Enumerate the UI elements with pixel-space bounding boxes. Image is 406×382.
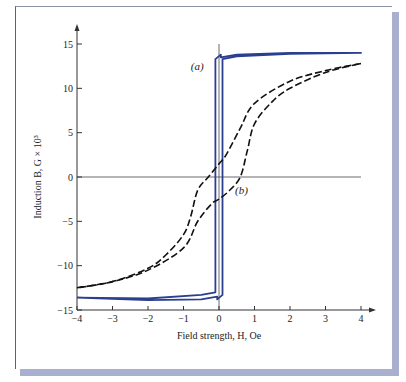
x-tick-label: 1 <box>252 313 257 324</box>
annotation-a: (a) <box>191 60 204 73</box>
x-tick-label: 4 <box>359 313 364 324</box>
y-tick-label: 10 <box>63 83 73 94</box>
y-tick-label: −15 <box>57 305 73 316</box>
y-axis-title: Induction B, G × 10³ <box>32 135 43 218</box>
x-tick-label: 3 <box>323 313 328 324</box>
x-tick-label: −2 <box>143 313 154 324</box>
x-tick-label: −1 <box>178 313 189 324</box>
y-tick-label: −10 <box>57 260 73 271</box>
x-tick-label: −3 <box>107 313 118 324</box>
hysteresis-chart: −4−3−2−101234151050−5−10−15 Field streng… <box>0 0 406 382</box>
annotation-b: (b) <box>235 184 248 197</box>
x-tick-label: −4 <box>72 313 83 324</box>
x-tick-label: 0 <box>217 313 222 324</box>
x-tick-label: 2 <box>288 313 293 324</box>
y-tick-label: −5 <box>62 216 73 227</box>
y-axis-arrow-icon <box>75 24 80 31</box>
y-tick-label: 5 <box>68 127 73 138</box>
axes: −4−3−2−101234151050−5−10−15 <box>57 24 376 324</box>
x-axis-arrow-icon <box>369 308 376 313</box>
y-tick-label: 0 <box>68 172 73 183</box>
x-axis-title: Field strength, H, Oe <box>177 330 262 341</box>
y-tick-label: 15 <box>63 39 73 50</box>
